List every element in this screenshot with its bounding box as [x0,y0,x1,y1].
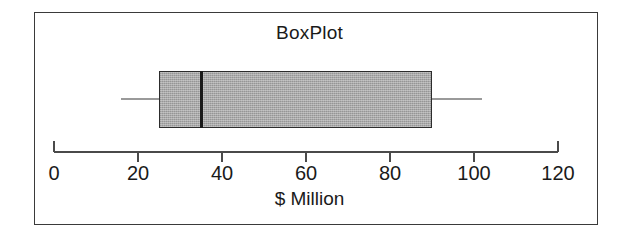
x-axis-tick-label: 60 [271,162,341,185]
x-axis-tick-label: 100 [439,162,509,185]
x-axis-tick [221,151,223,162]
median-line [200,71,203,128]
x-axis-tick-label: 0 [19,162,89,185]
whisker-lower [121,98,159,100]
x-axis-tick [389,151,391,162]
x-axis-tick-label: 80 [355,162,425,185]
x-axis-tick-label: 40 [187,162,257,185]
x-axis-tick [53,141,55,152]
x-axis-tick [557,141,559,152]
x-axis-tick [137,151,139,162]
x-axis-tick-label: 120 [523,162,593,185]
whisker-upper [432,98,482,100]
x-axis-label: $ Million [0,188,619,210]
boxplot-figure: BoxPlot 020406080100120 $ Million [0,0,619,241]
x-axis-tick-label: 20 [103,162,173,185]
x-axis-tick [305,151,307,162]
x-axis-tick [473,151,475,162]
